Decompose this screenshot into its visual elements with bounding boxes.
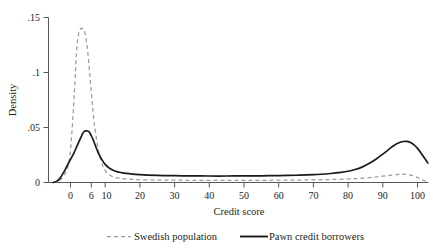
x-tick-label: 70 [308, 190, 318, 201]
x-tick-label: 40 [204, 190, 214, 201]
x-tick-label: 100 [410, 190, 425, 201]
legend-label-swedish-population: Swedish population [134, 231, 218, 242]
y-tick-label: .05 [28, 122, 41, 133]
x-tick-label: 0 [68, 190, 73, 201]
x-tick-label: 20 [135, 190, 145, 201]
x-tick-label: 6 [89, 190, 94, 201]
x-tick-label: 60 [274, 190, 284, 201]
y-axis-title: Density [7, 83, 18, 116]
y-tick-label: .1 [33, 67, 41, 78]
x-axis-tick-labels: 0 6 10 20 30 40 50 60 70 80 90 100 [68, 190, 425, 201]
x-tick-label: 90 [378, 190, 388, 201]
chart-canvas: .15 .1 .05 0 0 6 10 20 30 40 5 [0, 0, 433, 252]
legend-label-pawn-credit-borrowers: Pawn credit borrowers [269, 231, 364, 242]
x-tick-label: 50 [239, 190, 249, 201]
x-tick-label: 30 [170, 190, 180, 201]
y-tick-label: .15 [28, 12, 41, 23]
y-tick-label: 0 [35, 177, 40, 188]
x-tick-label: 10 [102, 190, 112, 201]
series-swedish-population [53, 28, 428, 182]
y-axis-tick-labels: .15 .1 .05 0 [28, 12, 41, 188]
x-axis-title: Credit score [213, 206, 264, 217]
x-tick-label: 80 [343, 190, 353, 201]
chart-legend: Swedish population Pawn credit borrowers [107, 231, 364, 242]
density-chart-figure: .15 .1 .05 0 0 6 10 20 30 40 5 [0, 0, 433, 252]
y-axis-ticks [44, 18, 49, 183]
x-axis-ticks [71, 183, 418, 188]
